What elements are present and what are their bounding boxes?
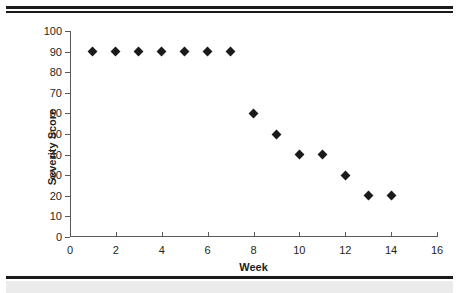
x-tick-label: 0 — [67, 244, 73, 256]
data-point-marker — [249, 108, 259, 118]
x-tick-label: 2 — [113, 244, 119, 256]
y-tick-label: 10 — [50, 210, 62, 222]
x-tick-label: 14 — [385, 244, 397, 256]
y-tick-mark — [65, 31, 70, 32]
y-tick-label: 70 — [50, 87, 62, 99]
y-tick-label: 20 — [50, 190, 62, 202]
x-tick-label: 8 — [250, 244, 256, 256]
data-point-marker — [134, 47, 144, 57]
x-tick-label: 16 — [431, 244, 443, 256]
y-tick-mark — [65, 216, 70, 217]
data-point-marker — [180, 47, 190, 57]
x-tick-mark — [254, 232, 255, 237]
y-tick-mark — [65, 93, 70, 94]
bottom-grey-strip — [6, 281, 453, 293]
y-tick-label: 80 — [50, 66, 62, 78]
x-tick-mark — [437, 232, 438, 237]
data-point-marker — [271, 129, 281, 139]
x-tick-label: 12 — [339, 244, 351, 256]
data-point-marker — [340, 170, 350, 180]
bottom-rule — [6, 276, 453, 279]
data-point-marker — [317, 150, 327, 160]
x-tick-label: 4 — [159, 244, 165, 256]
data-point-marker — [157, 47, 167, 57]
x-tick-mark — [162, 232, 163, 237]
y-tick-mark — [65, 52, 70, 53]
y-tick-mark — [65, 237, 70, 238]
y-tick-mark — [65, 134, 70, 135]
top-rule-thick — [6, 6, 453, 9]
plot-area: 0102030405060708090100 0246810121416 — [70, 31, 437, 237]
data-point-marker — [203, 47, 213, 57]
data-point-marker — [111, 47, 121, 57]
x-tick-label: 10 — [293, 244, 305, 256]
x-tick-mark — [345, 232, 346, 237]
y-tick-label: 40 — [50, 149, 62, 161]
x-tick-mark — [116, 232, 117, 237]
x-tick-mark — [299, 232, 300, 237]
data-point-marker — [226, 47, 236, 57]
data-point-marker — [363, 191, 373, 201]
y-tick-label: 0 — [56, 231, 62, 243]
top-double-rule — [6, 6, 453, 13]
data-point-marker — [386, 191, 396, 201]
y-tick-label: 90 — [50, 46, 62, 58]
y-tick-mark — [65, 155, 70, 156]
y-tick-mark — [65, 175, 70, 176]
chart-figure: Severity Score 0102030405060708090100 02… — [0, 0, 459, 293]
y-tick-mark — [65, 72, 70, 73]
y-tick-mark — [65, 113, 70, 114]
x-tick-label: 6 — [205, 244, 211, 256]
data-point-marker — [88, 47, 98, 57]
x-tick-mark — [208, 232, 209, 237]
y-tick-label: 100 — [44, 25, 62, 37]
top-rule-thin — [6, 11, 453, 13]
y-tick-mark — [65, 196, 70, 197]
y-tick-label: 30 — [50, 169, 62, 181]
y-tick-label: 50 — [50, 128, 62, 140]
x-tick-mark — [391, 232, 392, 237]
y-tick-label: 60 — [50, 107, 62, 119]
data-point-marker — [294, 150, 304, 160]
y-axis-line — [70, 31, 71, 237]
x-axis-title: Week — [70, 261, 437, 273]
